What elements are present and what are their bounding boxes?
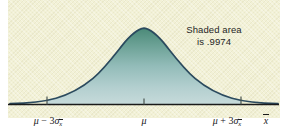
axis-variable-label: x (255, 115, 277, 126)
axis-label-mu: μ (124, 115, 164, 126)
annotation-line-2: is .9974 (172, 36, 256, 48)
shaded-area-annotation: Shaded area is .9974 (172, 24, 256, 47)
normal-curve-figure: Shaded area is .9974 μ − 3σx μ μ + 3σx x (0, 0, 287, 138)
axis-label-plus-three-sigma: μ + 3σx (196, 115, 258, 127)
annotation-line-1: Shaded area (172, 24, 256, 36)
axis-label-minus-three-sigma: μ − 3σx (14, 115, 82, 127)
